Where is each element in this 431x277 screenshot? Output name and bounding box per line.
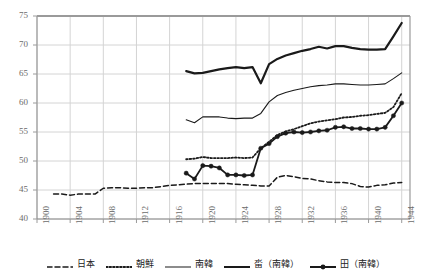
series-marker xyxy=(358,126,362,130)
x-tick-label: 1916 xyxy=(174,206,184,224)
data-series-layer xyxy=(54,23,404,195)
series-marker xyxy=(342,125,346,129)
series-marker xyxy=(234,173,238,177)
series-marker xyxy=(217,166,221,170)
series-marker xyxy=(350,126,354,130)
series-marker xyxy=(184,171,188,175)
line-chart-plot xyxy=(0,0,431,277)
legend-label: 田（南韓） xyxy=(340,257,385,270)
x-tick-label: 1912 xyxy=(140,206,150,224)
y-tick-label: 45 xyxy=(4,184,28,194)
series-marker xyxy=(383,125,387,129)
series-marker xyxy=(201,164,205,168)
series-line-2 xyxy=(186,73,402,123)
legend-label: 南韓 xyxy=(195,257,213,270)
y-tick-label: 75 xyxy=(4,10,28,20)
x-tick-label: 1928 xyxy=(273,206,283,224)
legend-item-4[interactable]: 田（南韓） xyxy=(310,257,385,270)
series-marker xyxy=(375,127,379,131)
series-marker xyxy=(325,128,329,132)
y-tick-label: 60 xyxy=(4,97,28,107)
series-marker xyxy=(300,130,304,134)
legend-label: 畓（南韓） xyxy=(254,257,299,270)
series-marker xyxy=(226,173,230,177)
series-marker xyxy=(284,131,288,135)
legend-swatch-icon xyxy=(165,258,191,268)
series-marker xyxy=(209,164,213,168)
series-marker xyxy=(308,130,312,134)
y-tick-label: 55 xyxy=(4,126,28,136)
legend-item-1[interactable]: 朝鮮 xyxy=(106,257,154,270)
series-marker xyxy=(400,101,404,105)
legend-item-2[interactable]: 南韓 xyxy=(165,257,213,270)
y-tick-label: 70 xyxy=(4,39,28,49)
x-tick-label: 1940 xyxy=(373,206,383,224)
series-marker xyxy=(366,127,370,131)
series-marker xyxy=(275,135,279,139)
legend-label: 朝鮮 xyxy=(136,257,154,270)
legend-label: 日本 xyxy=(77,257,95,270)
series-marker xyxy=(267,142,271,146)
series-marker xyxy=(250,173,254,177)
series-marker xyxy=(317,129,321,133)
x-tick-label: 1924 xyxy=(240,206,250,224)
y-tick-label: 40 xyxy=(4,213,28,223)
y-tick-label: 50 xyxy=(4,155,28,165)
series-marker xyxy=(292,130,296,134)
x-tick-label: 1908 xyxy=(107,206,117,224)
series-marker xyxy=(333,125,337,129)
y-tick-label: 65 xyxy=(4,68,28,78)
legend-item-0[interactable]: 日本 xyxy=(47,257,95,270)
legend-swatch-icon xyxy=(47,258,73,268)
series-marker xyxy=(259,146,263,150)
x-tick-label: 1944 xyxy=(406,206,416,224)
legend-swatch-icon xyxy=(310,258,336,268)
legend-swatch-icon xyxy=(224,258,250,268)
x-tick-label: 1920 xyxy=(207,206,217,224)
legend-swatch-icon xyxy=(106,258,132,268)
legend-item-3[interactable]: 畓（南韓） xyxy=(224,257,299,270)
chart-container: 4045505560657075 19001904190819121916192… xyxy=(0,0,431,277)
chart-legend: 日本朝鮮南韓畓（南韓）田（南韓） xyxy=(0,252,431,274)
x-tick-label: 1932 xyxy=(306,206,316,224)
x-tick-label: 1936 xyxy=(339,206,349,224)
series-marker xyxy=(242,173,246,177)
x-tick-label: 1904 xyxy=(74,206,84,224)
series-marker xyxy=(391,114,395,118)
x-tick-label: 1900 xyxy=(41,206,51,224)
series-line-0 xyxy=(54,176,402,196)
series-marker xyxy=(192,177,196,181)
